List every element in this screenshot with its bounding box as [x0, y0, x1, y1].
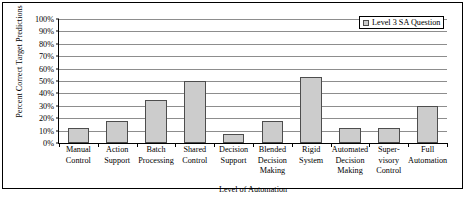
bar [145, 100, 167, 143]
bars-group [59, 19, 447, 143]
x-tick-label: FullAutomation [402, 145, 453, 166]
plot-area: 0%10%20%30%40%50%60%70%80%90%100% Manual… [58, 19, 447, 144]
y-tick-label: 100% [35, 15, 54, 24]
y-tick-label: 40% [39, 89, 54, 98]
y-tick-label: 60% [39, 64, 54, 73]
y-tick-label: 10% [39, 126, 54, 135]
bar [223, 134, 245, 143]
chart-legend: Level 3 SA Question [359, 16, 444, 29]
bar [262, 121, 284, 143]
y-tick-label: 90% [39, 27, 54, 36]
bar [106, 121, 128, 143]
bar [417, 106, 439, 143]
bar [339, 128, 361, 143]
bar [378, 128, 400, 143]
y-tick-label: 70% [39, 52, 54, 61]
bar [68, 128, 90, 143]
x-axis-title: Level of Automation [59, 185, 447, 194]
chart-container: Percent Correct Target Predictions 0%10%… [0, 0, 467, 204]
y-axis-title: Percent Correct Target Predictions [15, 0, 24, 132]
y-tick-label: 50% [39, 77, 54, 86]
y-tick-label: 20% [39, 114, 54, 123]
bar [184, 81, 206, 143]
legend-swatch-icon [363, 20, 369, 26]
bar [300, 77, 322, 143]
legend-label: Level 3 SA Question [372, 18, 440, 27]
y-tick-label: 30% [39, 101, 54, 110]
y-tick-label: 80% [39, 39, 54, 48]
